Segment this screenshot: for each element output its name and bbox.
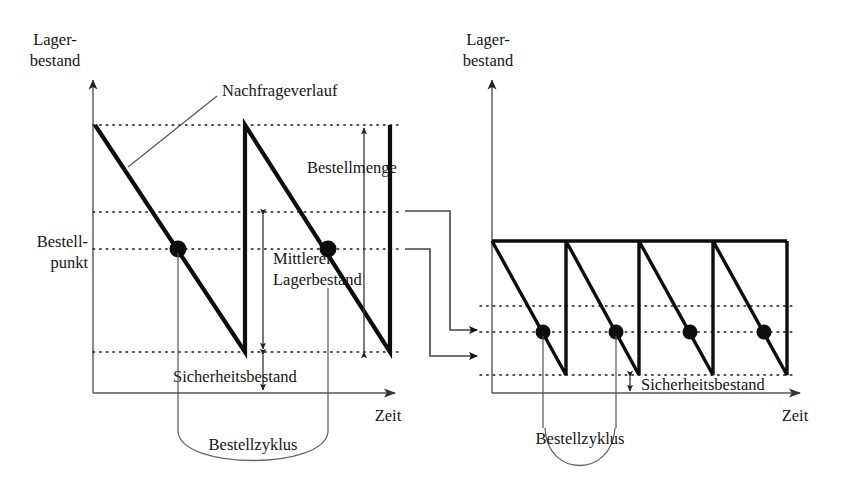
left-average-stock-label-line2: Lagerbestand: [273, 270, 363, 289]
right-y-axis-label-line2: bestand: [463, 51, 514, 70]
left-demand-leader-line: [128, 96, 217, 167]
right-reorder-marker-3: [683, 325, 698, 340]
right-order-cycle-label: Bestellzyklus: [536, 429, 625, 448]
diagram-canvas: Lager- bestand Zeit Bestell- punkt Nachf…: [0, 0, 846, 500]
left-order-quantity-label: Bestellmenge: [307, 158, 397, 177]
left-order-cycle-label: Bestellzyklus: [209, 435, 298, 454]
left-reorder-point-label-line2: punkt: [50, 253, 88, 272]
left-reorder-point-label-line1: Bestell-: [37, 232, 88, 251]
left-average-stock-label-line1: Mittlerer: [273, 249, 332, 268]
left-chart: Lager- bestand Zeit Bestell- punkt Nachf…: [30, 30, 402, 461]
left-safety-stock-label: Sicherheitsbestand: [173, 367, 297, 386]
right-reorder-marker-4: [757, 325, 772, 340]
inventory-diagram-svg: Lager- bestand Zeit Bestell- punkt Nachf…: [0, 0, 846, 500]
right-safety-stock-label: Sicherheitsbestand: [641, 375, 765, 394]
right-chart: Lager- bestand Zeit Sicherheitsbestand B…: [463, 30, 809, 466]
right-x-axis-label: Zeit: [782, 406, 809, 425]
left-y-axis-label-line1: Lager-: [33, 30, 77, 49]
left-demand-curve-label: Nachfrageverlauf: [222, 81, 338, 100]
connector-lower: [405, 249, 477, 356]
left-x-axis-label: Zeit: [375, 406, 402, 425]
panel-connectors: [405, 211, 477, 356]
left-y-axis-label-line2: bestand: [30, 51, 81, 70]
right-y-axis-label-line1: Lager-: [466, 30, 510, 49]
connector-upper: [405, 211, 477, 330]
right-demand-sawtooth: [492, 241, 787, 375]
